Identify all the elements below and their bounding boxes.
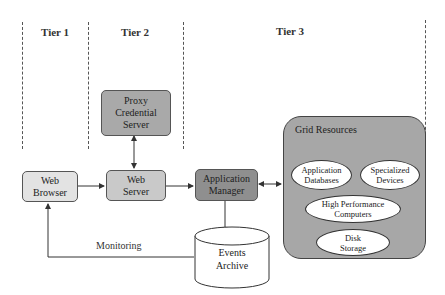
web-server-line-2: Server	[123, 186, 149, 198]
app-manager-line-1: Application	[203, 173, 250, 185]
spec-dev-line-2: Devices	[370, 175, 409, 185]
web-server-node: Web Server	[106, 170, 166, 201]
disk-storage-node: Disk Storage	[316, 229, 390, 256]
events-archive-line-1: Events	[195, 246, 269, 259]
proxy-line-1: Proxy	[115, 95, 157, 107]
events-archive-line-2: Archive	[195, 259, 269, 272]
web-browser-node: Web Browser	[22, 171, 78, 202]
application-databases-node: Application Databases	[291, 160, 352, 190]
specialized-devices-node: Specialized Devices	[360, 160, 420, 190]
app-db-line-1: Application	[301, 165, 341, 175]
proxy-line-2: Credential	[115, 107, 157, 119]
proxy-line-3: Server	[115, 119, 157, 131]
application-manager-node: Application Manager	[195, 169, 258, 201]
proxy-credential-server-node: Proxy Credential Server	[101, 90, 171, 136]
web-server-line-1: Web	[123, 174, 149, 186]
web-browser-line-1: Web	[33, 175, 67, 187]
web-browser-line-2: Browser	[33, 187, 67, 199]
hpc-line-2: Computers	[322, 209, 385, 219]
app-manager-line-2: Manager	[203, 185, 250, 197]
spec-dev-line-1: Specialized	[370, 165, 409, 175]
high-performance-computers-node: High Performance Computers	[305, 195, 401, 223]
disk-line-2: Storage	[340, 243, 366, 253]
grid-resources-title: Grid Resources	[295, 124, 357, 135]
app-db-line-2: Databases	[301, 175, 341, 185]
hpc-line-1: High Performance	[322, 199, 385, 209]
events-archive-node: Events Archive	[195, 246, 269, 272]
monitoring-label: Monitoring	[96, 240, 142, 251]
disk-line-1: Disk	[340, 233, 366, 243]
